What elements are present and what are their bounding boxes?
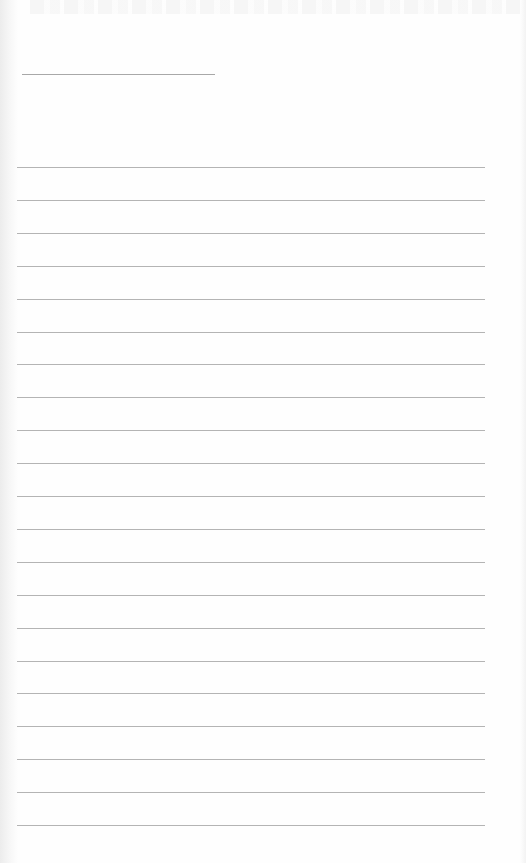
ruled-line — [17, 726, 485, 727]
ruled-line — [17, 661, 485, 662]
ruled-line — [17, 299, 485, 300]
ruled-line — [17, 397, 485, 398]
ruled-line — [17, 496, 485, 497]
ruled-line — [17, 792, 485, 793]
page-edge-shadow — [520, 0, 526, 863]
ruled-line — [17, 759, 485, 760]
ruled-line — [17, 233, 485, 234]
ruled-line — [17, 364, 485, 365]
ruled-line — [17, 430, 485, 431]
ruled-line — [17, 332, 485, 333]
ruled-line — [17, 562, 485, 563]
lined-paper-page — [0, 0, 526, 863]
header-write-line — [22, 74, 215, 75]
ruled-line — [17, 693, 485, 694]
ruled-line — [17, 167, 485, 168]
binding-shadow — [0, 0, 18, 863]
ruled-line — [17, 200, 485, 201]
ruled-line — [17, 628, 485, 629]
ruled-line — [17, 825, 485, 826]
ruled-line — [17, 595, 485, 596]
ruled-line — [17, 266, 485, 267]
faint-bleed-through — [30, 0, 520, 14]
ruled-line — [17, 529, 485, 530]
ruled-line — [17, 463, 485, 464]
